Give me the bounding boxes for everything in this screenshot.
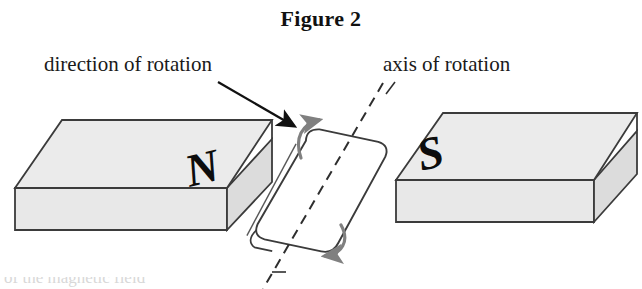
north-block-top-face (15, 120, 272, 188)
cut-off-caption-text: of the magnetic field (4, 277, 145, 287)
north-pole-magnet-block: N (15, 120, 272, 230)
cut-off-caption-fragment: of the magnetic field (0, 277, 642, 289)
figure-container: Figure 2 direction of rotation axis of r… (0, 0, 642, 289)
magnet-rotor-diagram: N S (0, 0, 642, 289)
axis-label-leader (386, 82, 395, 94)
south-block-front-face (396, 180, 594, 222)
south-pole-magnet-block: S (396, 113, 637, 222)
